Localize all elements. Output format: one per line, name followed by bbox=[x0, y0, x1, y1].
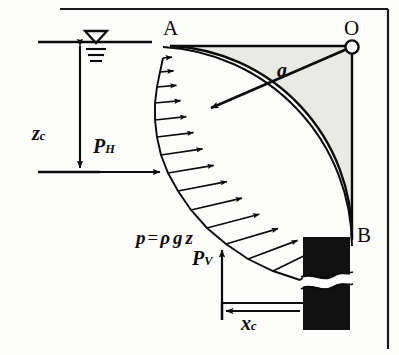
label-xc-symbol: x bbox=[241, 312, 251, 334]
label-ph-subscript: H bbox=[105, 142, 115, 156]
label-point-a: A bbox=[163, 18, 178, 39]
label-radius-a: a bbox=[277, 60, 287, 80]
label-pv-symbol: P bbox=[192, 247, 204, 269]
pivot-point-o bbox=[345, 40, 358, 53]
pressure-eq-rho: ρ bbox=[160, 227, 170, 248]
label-point-b: B bbox=[357, 225, 371, 246]
label-pressure-equation: p=ρgz bbox=[136, 228, 193, 247]
pressure-eq-g: g bbox=[173, 227, 183, 248]
label-vertical-force: PV bbox=[192, 248, 212, 268]
distance-dimension-arrow bbox=[222, 300, 303, 320]
label-depth-zc-subscript: c bbox=[40, 129, 46, 143]
label-pv-subscript: V bbox=[204, 254, 212, 268]
pressure-eq-equals: = bbox=[148, 227, 159, 248]
figure-canvas: A O B a zc PH PV xc p=ρgz bbox=[0, 0, 399, 355]
label-distance-xc: xc bbox=[241, 313, 257, 333]
label-horizontal-force: PH bbox=[93, 136, 115, 156]
label-ph-symbol: P bbox=[93, 135, 105, 157]
pressure-eq-p: p bbox=[136, 227, 146, 248]
water-surface-symbol-icon bbox=[85, 31, 107, 61]
label-point-o: O bbox=[344, 18, 359, 39]
hydrostatic-curved-gate-diagram bbox=[0, 0, 399, 355]
pressure-eq-z: z bbox=[186, 227, 193, 248]
wall-block bbox=[300, 237, 354, 330]
label-depth-zc-symbol: z bbox=[32, 122, 40, 144]
label-depth-zc: zc bbox=[32, 123, 45, 143]
label-xc-subscript: c bbox=[251, 319, 257, 333]
